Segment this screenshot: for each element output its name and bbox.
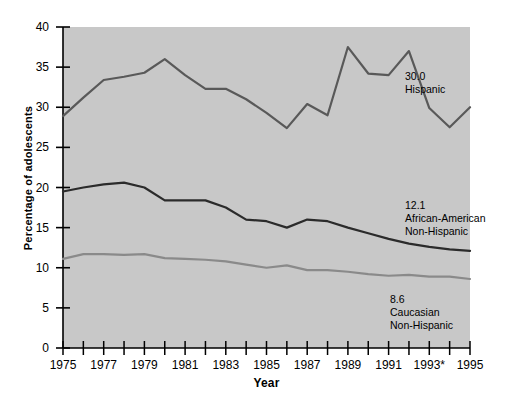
y-tick-label: 15 [23, 222, 49, 234]
chart-container: Percentage of adolescents Year 051015202… [0, 0, 515, 406]
x-tick-label: 1975 [40, 359, 86, 371]
y-tick-label: 25 [23, 141, 49, 153]
series-name-caucasian: Caucasian [390, 306, 453, 319]
y-tick-label: 20 [23, 182, 49, 194]
x-tick-label: 1989 [325, 359, 371, 371]
series-name-hispanic: Hispanic [405, 83, 445, 96]
x-tick-label: 1995 [447, 359, 493, 371]
y-tick-label: 35 [23, 61, 49, 73]
series-qualifier-caucasian: Non-Hispanic [390, 319, 453, 332]
x-tick-label: 1983 [203, 359, 249, 371]
series-label-hispanic: 30.0 Hispanic [405, 70, 445, 96]
x-tick-label: 1977 [81, 359, 127, 371]
x-tick-label: 1991 [366, 359, 412, 371]
x-axis-title: Year [63, 376, 470, 390]
y-tick-label: 5 [23, 302, 49, 314]
y-tick-label: 10 [23, 262, 49, 274]
series-label-caucasian: 8.6 Caucasian Non-Hispanic [390, 293, 453, 332]
series-value-african-american: 12.1 [405, 199, 486, 212]
series-value-caucasian: 8.6 [390, 293, 453, 306]
y-tick-label: 40 [23, 21, 49, 33]
x-tick-label: 1987 [284, 359, 330, 371]
series-qualifier-african-american: Non-Hispanic [405, 225, 486, 238]
series-value-hispanic: 30.0 [405, 70, 445, 83]
y-tick-label: 30 [23, 101, 49, 113]
series-label-african-american: 12.1 African-American Non-Hispanic [405, 199, 486, 238]
x-tick-label: 1985 [244, 359, 290, 371]
x-tick-label: 1979 [121, 359, 167, 371]
x-tick-label: 1993* [406, 359, 452, 371]
series-name-african-american: African-American [405, 212, 486, 225]
x-tick-label: 1981 [162, 359, 208, 371]
y-tick-label: 0 [23, 342, 49, 354]
